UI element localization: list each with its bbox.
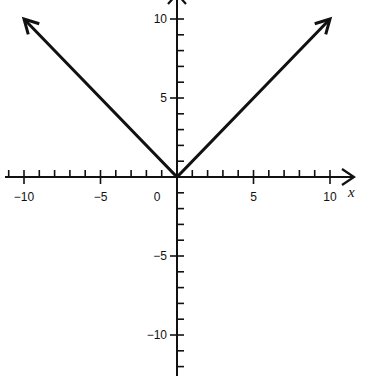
y-tick-label: 5 — [160, 91, 167, 105]
x-tick-label: 10 — [323, 190, 337, 204]
x-tick-label: −10 — [14, 190, 35, 204]
y-tick-label: 10 — [154, 12, 168, 26]
ticks — [9, 19, 330, 367]
plot-area: x −10−50510105−5−10 — [0, 0, 365, 376]
x-tick-label: 5 — [250, 190, 257, 204]
y-tick-label: −10 — [147, 328, 168, 342]
x-tick-label: 0 — [154, 190, 161, 204]
x-tick-label: −5 — [94, 190, 108, 204]
x-axis-label: x — [347, 184, 355, 200]
y-tick-label: −5 — [153, 249, 167, 263]
